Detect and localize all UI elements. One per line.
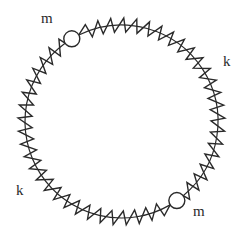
spring-k1-coil bbox=[79, 18, 225, 199]
springs-group bbox=[18, 18, 225, 225]
mass-label-m1: m bbox=[41, 11, 53, 26]
mass-m1 bbox=[64, 31, 80, 47]
spring-axis-k1 bbox=[79, 25, 218, 196]
spring-k2-coil bbox=[18, 39, 170, 225]
spring-label-k1: k bbox=[223, 54, 231, 69]
spring-label-k2: k bbox=[16, 183, 24, 198]
spring-axis-k2 bbox=[25, 43, 170, 218]
mass-label-m2: m bbox=[193, 204, 205, 219]
diagram-canvas bbox=[0, 0, 244, 242]
masses-group bbox=[64, 31, 185, 209]
spring-mass-ring-diagram: m m k k bbox=[0, 0, 244, 242]
mass-m2 bbox=[169, 193, 185, 209]
